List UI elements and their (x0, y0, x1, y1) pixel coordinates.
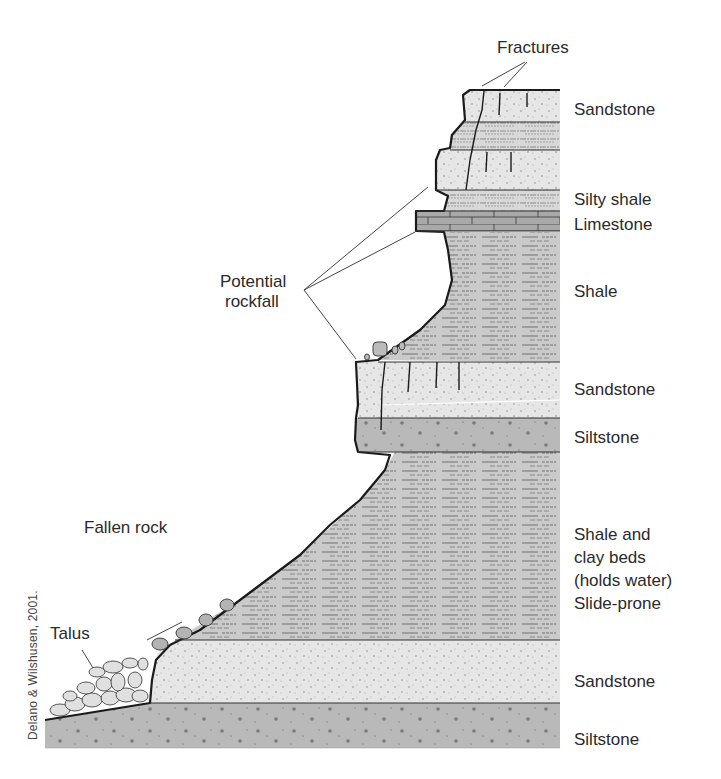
layer-label-shale-clay-2: clay beds (574, 548, 646, 568)
label-talus: Talus (50, 624, 90, 644)
layer-label-limestone: Limestone (574, 215, 652, 235)
layer-label-silty-shale: Silty shale (574, 190, 651, 210)
layer-label-siltstone-bottom: Siltstone (574, 730, 639, 750)
layer-label-shale-clay-3: (holds water) (574, 571, 672, 591)
label-fallen-rock: Fallen rock (84, 518, 167, 538)
layer-siltstone-bottom (45, 703, 560, 748)
layer-sandstone-bottom (148, 640, 560, 703)
layer-label-sandstone-top: Sandstone (574, 100, 655, 120)
label-fractures: Fractures (497, 38, 569, 58)
layer-label-shale-clay-4: Slide-prone (574, 594, 661, 614)
layer-label-sandstone-bottom: Sandstone (574, 672, 655, 692)
layer-shale (378, 232, 560, 362)
credit-text: Delano & Wilshusen, 2001. (26, 590, 40, 740)
layer-label-shale-clay-1: Shale and (574, 525, 651, 545)
layer-silty-shale (435, 190, 560, 211)
layer-siltstone-middle (355, 418, 560, 452)
layer-shale-clay (175, 452, 560, 640)
label-potential-rockfall-1: Potential (220, 272, 286, 292)
layer-label-shale: Shale (574, 282, 617, 302)
layer-sandstone-middle (356, 362, 560, 418)
label-potential-rockfall-2: rockfall (225, 292, 279, 312)
layer-label-siltstone-middle: Siltstone (574, 428, 639, 448)
layer-limestone (416, 211, 560, 231)
layer-label-sandstone-middle: Sandstone (574, 380, 655, 400)
